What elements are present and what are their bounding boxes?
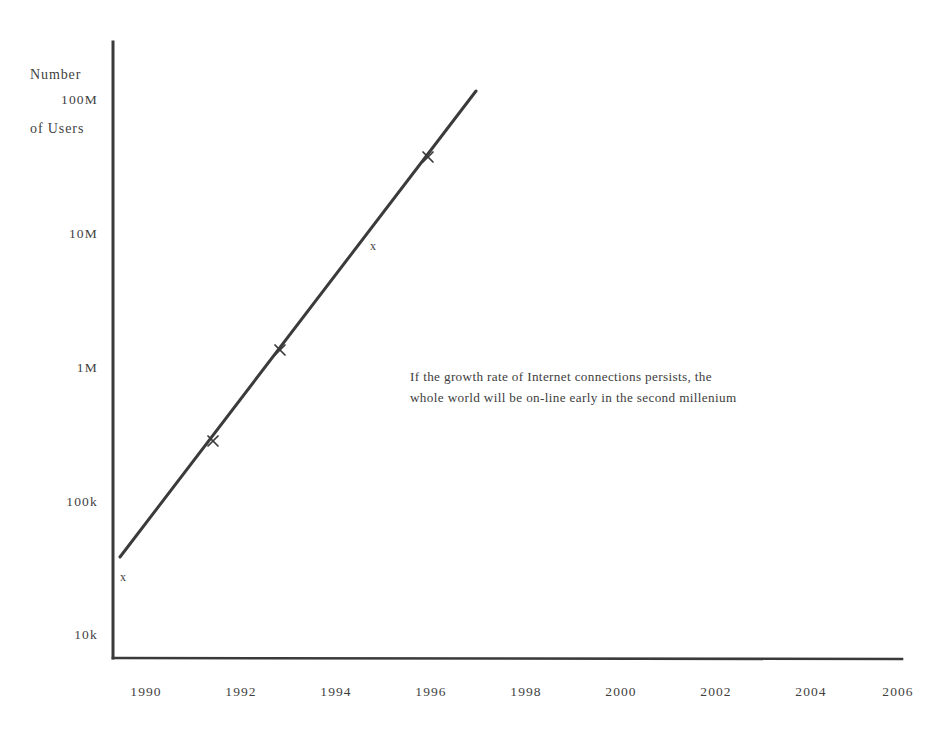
data-point-markers [208, 152, 433, 446]
x-tick-2004: 2004 [776, 684, 846, 700]
x-tick-2000: 2000 [586, 684, 656, 700]
y-tick-label: 10k [24, 627, 98, 643]
y-tick-label: 10M [24, 226, 98, 242]
chart-annotation: If the growth rate of Internet connectio… [410, 366, 830, 408]
x-tick-2006: 2006 [863, 684, 933, 700]
y-tick-label: 100k [24, 494, 98, 510]
x-tick-1996: 1996 [396, 684, 466, 700]
x-tick-1994: 1994 [301, 684, 371, 700]
chart-figure: Number of Users x x 10 [0, 0, 934, 743]
x-tick-2002: 2002 [681, 684, 751, 700]
data-series-internet-users [120, 91, 476, 557]
x-axis-line [113, 658, 902, 659]
y-tick-label: 1M [24, 360, 98, 376]
axes [113, 42, 902, 659]
chart-annotation-line-2: whole world will be on-line early in the… [410, 387, 830, 408]
x-tick-1992: 1992 [206, 684, 276, 700]
data-point-marker-label: x [370, 239, 376, 254]
trend-line [120, 91, 476, 557]
x-tick-1990: 1990 [111, 684, 181, 700]
y-tick-label: 100M [24, 92, 98, 108]
x-tick-1998: 1998 [491, 684, 561, 700]
data-point-marker-label: x [120, 570, 126, 585]
chart-annotation-line-1: If the growth rate of Internet connectio… [410, 366, 830, 387]
